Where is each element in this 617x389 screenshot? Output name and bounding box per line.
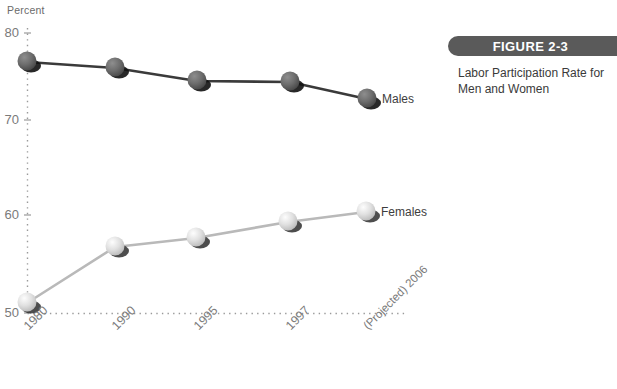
data-point-females-1997 bbox=[279, 212, 298, 231]
figure-number-label: FIGURE 2-3 bbox=[493, 39, 569, 54]
y-tick-label-80: 80 bbox=[0, 25, 19, 40]
data-point-males-1995 bbox=[188, 71, 207, 90]
data-point-males-2006 bbox=[358, 89, 377, 108]
y-tick-label-70: 70 bbox=[0, 112, 19, 127]
figure-caption-block: FIGURE 2-3 Labor Participation Rate for … bbox=[448, 36, 617, 97]
y-tick-label-60: 60 bbox=[0, 207, 19, 222]
figure-caption-line-1: Labor Participation Rate for bbox=[458, 65, 617, 81]
data-point-males-1990 bbox=[106, 58, 125, 77]
series-line-females bbox=[27, 212, 366, 303]
series-label-females: Females bbox=[381, 205, 427, 219]
data-point-females-1990 bbox=[106, 237, 125, 256]
data-point-males-1980 bbox=[18, 52, 37, 71]
data-point-females-2006 bbox=[357, 202, 376, 221]
figure-number-banner: FIGURE 2-3 bbox=[448, 36, 617, 56]
data-point-females-1995 bbox=[187, 228, 206, 247]
data-point-males-1997 bbox=[281, 72, 300, 91]
y-axis-title: Percent bbox=[7, 4, 45, 16]
figure-caption-text: Labor Participation Rate for Men and Wom… bbox=[448, 65, 617, 97]
series-markers-males bbox=[18, 52, 382, 110]
y-tick-label-50: 50 bbox=[0, 305, 19, 320]
series-label-males: Males bbox=[382, 92, 414, 106]
figure-caption-line-2: Men and Women bbox=[458, 81, 617, 97]
